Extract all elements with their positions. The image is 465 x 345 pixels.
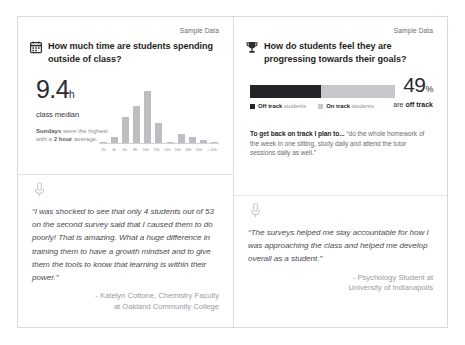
sample-data-label-right: Sample Data	[246, 27, 433, 34]
off-track-caption-bold: off track	[405, 101, 433, 108]
left-quote-attr-line1: - Katelyn Cottone, Chemistry Faculty	[32, 291, 219, 302]
off-track-percent-block: 49% are off track	[371, 74, 433, 108]
histogram-x-label: 10h	[142, 145, 149, 155]
legend-off-track-bold: Off track	[258, 103, 282, 109]
right-quote-block: “The surveys helped me stay accountable …	[234, 199, 447, 294]
right-quote-text: “The surveys helped me stay accountable …	[248, 226, 433, 266]
microphone-icon	[34, 182, 45, 197]
right-divider	[234, 195, 447, 196]
note-tail: average.	[72, 135, 97, 142]
histogram-x-label: 18h	[185, 145, 192, 155]
histogram-x-axis-labels: 2h4h6h8h10h12h14h16h18h20h+ 20h	[99, 145, 219, 155]
histogram-x-label: 8h	[132, 145, 139, 155]
right-quote-attr-line2: University of Indianapolis	[248, 283, 433, 294]
panel-goal-progress: Sample Data How do students feel they ar…	[233, 17, 447, 327]
histogram-x-label: 20h	[195, 145, 202, 155]
off-track-percent-unit: %	[425, 84, 433, 94]
class-median-value: 9.4	[36, 75, 69, 103]
right-quote-attr-line1: - Psychology Student at	[248, 273, 433, 284]
histogram-bar	[189, 137, 196, 143]
left-question-text: How much time are students spending outs…	[48, 40, 221, 65]
off-track-segment	[250, 85, 321, 98]
right-question-text: How do students feel they are progressin…	[264, 40, 435, 65]
left-question-row: How much time are students spending outs…	[30, 40, 221, 65]
right-question-row: How do students feel they are progressin…	[246, 40, 435, 65]
plan-lead: To get back on track I plan to...	[250, 130, 345, 137]
off-track-percent-row: 49%	[371, 74, 433, 100]
histogram-x-label: 2h	[100, 145, 107, 155]
get-back-on-track-text: To get back on track I plan to... “do th…	[250, 129, 431, 158]
histogram-x-label: 12h	[153, 145, 160, 155]
track-legend: Off track students On track students	[250, 103, 374, 109]
left-stat-and-chart: 9.4h class median Sundays were the highe…	[30, 77, 221, 155]
histogram-bar	[122, 117, 129, 143]
sample-data-label-left: Sample Data	[30, 27, 219, 34]
right-quote-attribution: - Psychology Student at University of In…	[248, 273, 433, 294]
off-track-stat-area: 49% are off track Off track students	[246, 79, 435, 123]
histogram-bar	[144, 91, 151, 143]
trophy-icon	[246, 41, 258, 54]
off-track-percent-caption: are off track	[371, 101, 433, 108]
panel-time-outside-class: Sample Data	[18, 17, 233, 327]
histogram-x-label: + 20h	[206, 145, 218, 155]
histogram-x-label: 6h	[121, 145, 128, 155]
histogram-bar	[200, 140, 207, 143]
left-quote-block: “I was shocked to see that only 4 studen…	[18, 178, 233, 312]
legend-item-off-track: Off track students	[250, 103, 306, 109]
histogram-x-label: 14h	[164, 145, 171, 155]
legend-item-on-track: On track students	[318, 103, 374, 109]
histogram-bars	[99, 87, 219, 144]
legend-off-track-rest: students	[282, 103, 306, 109]
legend-on-track-rest: students	[350, 103, 374, 109]
microphone-icon	[250, 203, 261, 218]
histogram-bar	[211, 142, 218, 143]
histogram-x-label: 4h	[111, 145, 118, 155]
left-quote-attr-line2: at Oakland Community College	[32, 302, 219, 313]
histogram-bar	[178, 134, 185, 143]
histogram-bar	[133, 106, 140, 143]
dashboard-frame: Sample Data	[17, 16, 448, 328]
note-lead: Sundays	[36, 127, 61, 134]
histogram-x-label: 16h	[174, 145, 181, 155]
calendar-icon	[30, 41, 42, 54]
class-median-unit: h	[69, 89, 75, 100]
note-bold: 2 hour	[54, 135, 73, 142]
legend-swatch-on-track	[318, 104, 323, 109]
left-quote-text: “I was shocked to see that only 4 studen…	[32, 205, 219, 284]
hours-histogram-chart: 2h4h6h8h10h12h14h16h18h20h+ 20h	[99, 79, 219, 155]
off-track-caption-lead: are	[393, 101, 405, 108]
off-track-percent-value: 49	[403, 73, 425, 96]
left-panel-inner: Sample Data	[18, 17, 233, 327]
legend-on-track-bold: On track	[326, 103, 350, 109]
histogram-bar	[167, 142, 174, 143]
left-divider	[18, 174, 233, 175]
legend-swatch-off-track	[250, 104, 255, 109]
left-quote-attribution: - Katelyn Cottone, Chemistry Faculty at …	[32, 291, 219, 312]
dashboard-screenshot: Sample Data	[0, 0, 465, 345]
histogram-bar	[100, 142, 107, 143]
histogram-bar	[155, 123, 162, 143]
histogram-bar	[111, 137, 118, 143]
right-panel-inner: Sample Data How do students feel they ar…	[234, 17, 447, 327]
